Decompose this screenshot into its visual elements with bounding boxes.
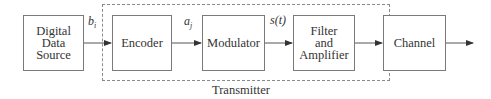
block-label-line: Source: [36, 49, 71, 61]
block-encoder: Encoder: [112, 15, 172, 71]
block-digital-data-source: Digital Data Source: [23, 15, 84, 71]
transmitter-label: Transmitter: [212, 83, 270, 98]
signal-label-b: bi: [88, 14, 96, 30]
block-modulator: Modulator: [202, 15, 265, 71]
block-label-line: Channel: [394, 37, 436, 49]
block-channel: Channel: [383, 15, 446, 71]
block-label-line: Amplifier: [299, 49, 348, 61]
block-label-line: Encoder: [121, 37, 163, 49]
block-filter-amplifier: Filter and Amplifier: [293, 15, 355, 71]
block-label-line: Modulator: [207, 37, 260, 49]
signal-label-a: aj: [184, 14, 192, 30]
signal-label-s: s(t): [270, 13, 286, 28]
